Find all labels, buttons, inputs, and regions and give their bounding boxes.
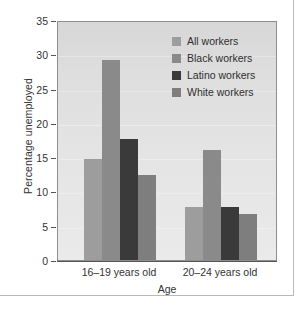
legend-item-label: White workers	[187, 87, 254, 98]
y-axis-tick-label: 30	[18, 50, 48, 61]
y-axis-tick	[51, 124, 56, 125]
y-axis-tick	[51, 158, 56, 159]
chart-legend: All workersBlack workersLatino workersWh…	[172, 33, 282, 101]
bar	[239, 214, 257, 260]
y-axis-tick	[51, 90, 56, 91]
x-axis-tick-label: 16–19 years old	[64, 266, 174, 278]
legend-item[interactable]: Latino workers	[172, 67, 282, 84]
bar	[138, 175, 156, 260]
legend-item-label: Black workers	[187, 53, 252, 64]
unemployment-bar-chart-figure: Percentage unemployed 05101520253035 16–…	[0, 0, 301, 312]
y-axis-tick-label: 0	[18, 256, 48, 267]
y-axis-title: Percentage unemployed	[22, 46, 34, 226]
y-axis-tick-label: 10	[18, 187, 48, 198]
y-axis-tick	[51, 55, 56, 56]
bar	[203, 150, 221, 260]
x-axis-tick-label: 20–24 years old	[165, 266, 275, 278]
legend-swatch-icon	[172, 54, 181, 63]
y-axis-tick	[51, 227, 56, 228]
legend-item[interactable]: Black workers	[172, 50, 282, 67]
x-axis-line	[57, 261, 277, 262]
y-axis-tick	[51, 261, 56, 262]
y-axis-tick	[51, 21, 56, 22]
y-axis-tick-label: 25	[18, 85, 48, 96]
bar	[84, 159, 102, 260]
legend-swatch-icon	[172, 88, 181, 97]
legend-item[interactable]: All workers	[172, 33, 282, 50]
x-axis-title: Age	[57, 283, 277, 295]
bar	[120, 139, 138, 260]
bar	[185, 207, 203, 260]
gridline	[58, 125, 276, 126]
legend-item-label: All workers	[187, 36, 238, 47]
legend-item-label: Latino workers	[187, 70, 255, 81]
y-axis-tick-label: 20	[18, 119, 48, 130]
bar	[102, 60, 120, 260]
y-axis-tick-label: 35	[18, 16, 48, 27]
legend-item[interactable]: White workers	[172, 84, 282, 101]
y-axis-tick	[51, 192, 56, 193]
figure-frame-right-rule	[293, 0, 294, 296]
legend-swatch-icon	[172, 71, 181, 80]
y-axis-tick-label: 5	[18, 222, 48, 233]
bar	[221, 207, 239, 260]
legend-swatch-icon	[172, 37, 181, 46]
y-axis-tick-label: 15	[18, 153, 48, 164]
figure-frame-bottom-rule	[0, 295, 294, 296]
